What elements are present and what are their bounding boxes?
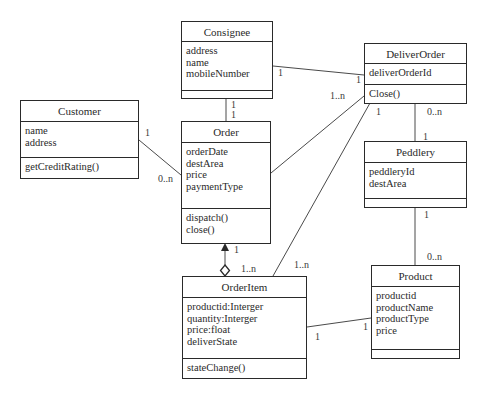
multiplicity-label: 1: [278, 67, 283, 78]
attribute: name: [186, 57, 268, 69]
attribute: address: [186, 45, 268, 57]
multiplicity-label: 0..n: [427, 106, 442, 117]
operation: dispatch(): [186, 212, 266, 224]
attribute: paymentType: [186, 181, 266, 193]
class-operations: Close(): [365, 85, 466, 103]
attribute: destArea: [369, 178, 462, 190]
class-attributes: deliverOrderId: [365, 64, 466, 85]
class-attributes: name address: [21, 122, 138, 158]
multiplicity-label: 1: [145, 127, 150, 138]
operation: Close(): [369, 88, 462, 100]
line-orderitem-deliverorder: [273, 103, 370, 276]
class-title: DeliverOrder: [365, 44, 466, 64]
class-operations: stateChange(): [183, 359, 306, 378]
attribute: name: [25, 125, 134, 137]
class-operations: dispatch() close(): [182, 209, 270, 243]
class-attributes: peddleryId destArea: [365, 163, 466, 199]
class-title: Product: [372, 266, 459, 287]
multiplicity-label: 1: [424, 209, 429, 220]
class-operations: [372, 350, 459, 358]
line-consignee-deliverorder: [273, 66, 364, 75]
class-operations: [182, 91, 272, 98]
class-title: Consignee: [182, 22, 272, 42]
class-product[interactable]: Product productid productName productTyp…: [371, 265, 460, 359]
attribute: price: [376, 325, 455, 337]
attribute: productType: [376, 313, 455, 325]
multiplicity-label: 1: [234, 244, 239, 255]
arrowhead-icon: [221, 243, 229, 251]
multiplicity-label: 1..n: [330, 90, 345, 101]
class-consignee[interactable]: Consignee address name mobileNumber: [181, 21, 273, 99]
line-orderitem-product: [307, 318, 371, 327]
attribute: orderDate: [186, 146, 266, 158]
attribute: productid: [376, 290, 455, 302]
attribute: address: [25, 137, 134, 149]
line-order-deliverorder: [271, 96, 364, 173]
class-title: Peddlery: [365, 142, 466, 163]
class-deliverorder[interactable]: DeliverOrder deliverOrderId Close(): [364, 43, 467, 104]
attribute: mobileNumber: [186, 68, 268, 80]
class-attributes: productid productName productType price: [372, 287, 459, 350]
aggregation-diamond-icon: [221, 265, 230, 276]
multiplicity-label: 1: [231, 109, 236, 120]
attribute: destArea: [186, 158, 266, 170]
class-operations: [365, 199, 466, 207]
multiplicity-label: 0..n: [158, 173, 173, 184]
multiplicity-label: 1: [363, 321, 368, 332]
multiplicity-label: 1..n: [294, 259, 309, 270]
attribute: deliverOrderId: [369, 67, 462, 79]
multiplicity-label: 0..n: [427, 251, 442, 262]
class-order[interactable]: Order orderDate destArea price paymentTy…: [181, 121, 271, 244]
operation: getCreditRating(): [25, 161, 134, 173]
attribute: price:float: [187, 324, 302, 336]
operation: stateChange(): [187, 362, 302, 374]
attribute: productName: [376, 302, 455, 314]
line-customer-order: [139, 140, 181, 175]
attribute: peddleryId: [369, 166, 462, 178]
multiplicity-label: 1: [376, 106, 381, 117]
class-orderitem[interactable]: OrderItem productid:Interger quantity:In…: [182, 276, 307, 379]
multiplicity-label: 1: [356, 74, 361, 85]
multiplicity-label: 1: [315, 331, 320, 342]
multiplicity-label: 1..n: [241, 263, 256, 274]
class-title: Order: [182, 122, 270, 143]
class-customer[interactable]: Customer name address getCreditRating(): [20, 100, 139, 179]
class-title: OrderItem: [183, 277, 306, 298]
class-peddlery[interactable]: Peddlery peddleryId destArea: [364, 141, 467, 208]
attribute: quantity:Interger: [187, 313, 302, 325]
attribute: productid:Interger: [187, 301, 302, 313]
operation: close(): [186, 224, 266, 236]
class-title: Customer: [21, 101, 138, 122]
class-attributes: address name mobileNumber: [182, 42, 272, 91]
attribute: deliverState: [187, 336, 302, 348]
class-attributes: orderDate destArea price paymentType: [182, 143, 270, 209]
class-operations: getCreditRating(): [21, 158, 138, 178]
class-attributes: productid:Interger quantity:Interger pri…: [183, 298, 306, 359]
attribute: price: [186, 169, 266, 181]
multiplicity-label: 1: [423, 131, 428, 142]
